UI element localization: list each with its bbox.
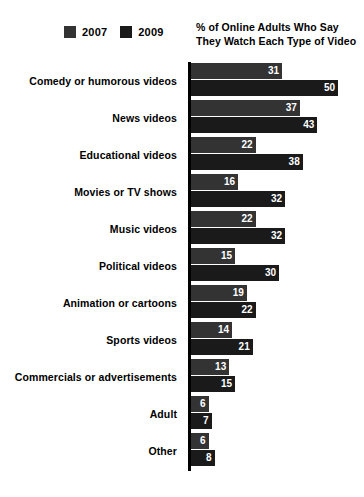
- bar-group: Educational videos2238: [0, 136, 364, 173]
- bar-value-label: 22: [242, 211, 253, 227]
- bar-row-2007: 31: [191, 63, 282, 79]
- category-label: Movies or TV shows: [0, 173, 183, 210]
- bar: 19: [191, 285, 247, 301]
- bar: 21: [191, 339, 253, 355]
- category-label: Commercials or advertisements: [0, 358, 183, 395]
- bar: 15: [191, 376, 235, 392]
- category-label: Music videos: [0, 210, 183, 247]
- bar-value-label: 37: [286, 100, 297, 116]
- bar: 37: [191, 100, 300, 116]
- bar-value-label: 13: [215, 359, 226, 375]
- bar-row-2007: 22: [191, 137, 256, 153]
- bar: 13: [191, 359, 229, 375]
- category-label: Adult: [0, 395, 183, 432]
- bar-row-2009: 7: [191, 413, 212, 429]
- bar-row-2007: 6: [191, 433, 209, 449]
- bar-group: Animation or cartoons1922: [0, 284, 364, 321]
- bar: 22: [191, 137, 256, 153]
- legend-swatch-icon: [64, 26, 76, 38]
- bar: 31: [191, 63, 282, 79]
- bar-value-label: 15: [221, 376, 232, 392]
- bar: 30: [191, 265, 279, 281]
- bar-group: Other68: [0, 432, 364, 469]
- legend-label: 2009: [138, 26, 163, 38]
- bar-group: Commercials or advertisements1315: [0, 358, 364, 395]
- bar-row-2007: 37: [191, 100, 300, 116]
- bar-row-2009: 22: [191, 302, 256, 318]
- bar-value-label: 8: [206, 450, 212, 466]
- legend-swatch-icon: [120, 26, 132, 38]
- bar: 22: [191, 211, 256, 227]
- bar: 6: [191, 396, 209, 412]
- category-label: Political videos: [0, 247, 183, 284]
- category-label: Comedy or humorous videos: [0, 62, 183, 99]
- bar-group: News videos3743: [0, 99, 364, 136]
- bar-value-label: 14: [218, 322, 229, 338]
- category-label: News videos: [0, 99, 183, 136]
- bar-value-label: 19: [233, 285, 244, 301]
- bar-row-2009: 32: [191, 191, 285, 207]
- bar-value-label: 15: [221, 248, 232, 264]
- bar-row-2009: 15: [191, 376, 235, 392]
- bar-row-2007: 14: [191, 322, 232, 338]
- bar-value-label: 38: [289, 154, 300, 170]
- bar: 38: [191, 154, 303, 170]
- bar-row-2009: 32: [191, 228, 285, 244]
- bar-row-2009: 50: [191, 80, 338, 96]
- bar: 8: [191, 450, 215, 466]
- bar-row-2009: 8: [191, 450, 215, 466]
- bar-value-label: 6: [200, 433, 206, 449]
- chart-legend: 20072009: [64, 26, 164, 38]
- category-label: Other: [0, 432, 183, 469]
- bar-row-2007: 15: [191, 248, 235, 264]
- bar-value-label: 22: [242, 302, 253, 318]
- bar: 22: [191, 302, 256, 318]
- legend-entry-2009: 2009: [120, 26, 163, 38]
- bar: 7: [191, 413, 212, 429]
- bar: 6: [191, 433, 209, 449]
- plot-area: Comedy or humorous videos3150News videos…: [0, 62, 364, 474]
- bar-value-label: 31: [268, 63, 279, 79]
- bar-group: Music videos2232: [0, 210, 364, 247]
- category-label: Educational videos: [0, 136, 183, 173]
- bar-row-2007: 19: [191, 285, 247, 301]
- chart-title: % of Online Adults Who Say They Watch Ea…: [196, 20, 364, 48]
- category-label: Sports videos: [0, 321, 183, 358]
- bar-row-2007: 13: [191, 359, 229, 375]
- bar-group: Sports videos1421: [0, 321, 364, 358]
- bar-row-2007: 6: [191, 396, 209, 412]
- bar-value-label: 32: [271, 191, 282, 207]
- bar-value-label: 7: [203, 413, 209, 429]
- bar-value-label: 32: [271, 228, 282, 244]
- bar-row-2007: 22: [191, 211, 256, 227]
- bar: 32: [191, 228, 285, 244]
- bar-group: Adult67: [0, 395, 364, 432]
- bar-group: Movies or TV shows1632: [0, 173, 364, 210]
- bar: 43: [191, 117, 317, 133]
- bar-value-label: 6: [200, 396, 206, 412]
- bar-value-label: 30: [265, 265, 276, 281]
- bar: 16: [191, 174, 238, 190]
- legend-label: 2007: [82, 26, 107, 38]
- bar: 50: [191, 80, 338, 96]
- category-label: Animation or cartoons: [0, 284, 183, 321]
- bar: 15: [191, 248, 235, 264]
- bar-row-2009: 30: [191, 265, 279, 281]
- bar-value-label: 22: [242, 137, 253, 153]
- bar-row-2009: 21: [191, 339, 253, 355]
- bar-row-2009: 43: [191, 117, 317, 133]
- bar-group: Comedy or humorous videos3150: [0, 62, 364, 99]
- bar-chart: 20072009 % of Online Adults Who Say They…: [0, 0, 364, 497]
- bar-group: Political videos1530: [0, 247, 364, 284]
- bar-value-label: 16: [224, 174, 235, 190]
- bar-value-label: 21: [239, 339, 250, 355]
- bar-row-2007: 16: [191, 174, 238, 190]
- bar: 14: [191, 322, 232, 338]
- bar-row-2009: 38: [191, 154, 303, 170]
- bar-value-label: 43: [303, 117, 314, 133]
- legend-entry-2007: 2007: [64, 26, 107, 38]
- bar-value-label: 50: [324, 80, 335, 96]
- bar: 32: [191, 191, 285, 207]
